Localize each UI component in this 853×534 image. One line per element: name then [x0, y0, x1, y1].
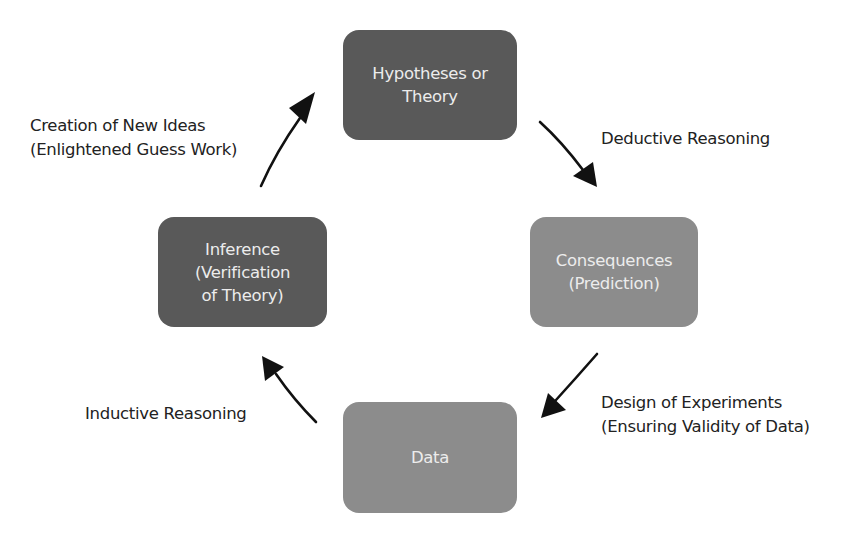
node-hypotheses: Hypotheses or Theory	[343, 30, 517, 140]
arrow-hypotheses-to-consequences-icon	[540, 122, 597, 187]
arrow-data-to-inference-icon	[262, 356, 316, 422]
edge-label-deductive-line-1: Deductive Reasoning	[601, 127, 770, 151]
node-inference-line-2: (Verification	[195, 261, 290, 284]
node-inference: Inference (Verification of Theory)	[158, 217, 327, 327]
edge-label-inductive-line-1: Inductive Reasoning	[85, 402, 247, 426]
edge-label-creation-line-2: (Enlightened Guess Work)	[30, 138, 237, 162]
node-inference-line-1: Inference	[205, 238, 280, 261]
edge-label-design-of-experiments: Design of Experiments (Ensuring Validity…	[601, 391, 810, 439]
edge-label-creation-line-1: Creation of New Ideas	[30, 114, 237, 138]
node-data-line-1: Data	[411, 446, 449, 469]
node-hypotheses-line-2: Theory	[402, 85, 458, 108]
edge-label-creation-of-new-ideas: Creation of New Ideas (Enlightened Guess…	[30, 114, 237, 162]
node-data: Data	[343, 402, 517, 513]
node-consequences-line-1: Consequences	[556, 249, 673, 272]
node-inference-line-3: of Theory)	[202, 284, 284, 307]
arrow-consequences-to-data-icon	[541, 354, 597, 418]
edge-label-deductive-reasoning: Deductive Reasoning	[601, 127, 770, 151]
edge-label-design-line-1: Design of Experiments	[601, 391, 810, 415]
arrow-inference-to-hypotheses-icon	[261, 92, 315, 186]
node-consequences: Consequences (Prediction)	[530, 217, 698, 327]
edge-label-inductive-reasoning: Inductive Reasoning	[85, 402, 247, 426]
node-consequences-line-2: (Prediction)	[568, 272, 659, 295]
edge-label-design-line-2: (Ensuring Validity of Data)	[601, 415, 810, 439]
node-hypotheses-line-1: Hypotheses or	[372, 62, 487, 85]
